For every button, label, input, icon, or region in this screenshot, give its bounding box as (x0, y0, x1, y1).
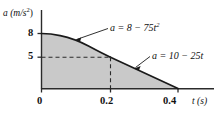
acceleration-time-figure: a (m/s2) t (s) 8 5 0 0.2 0.4 a = 8 − 75t… (0, 0, 221, 116)
leader-line-curve (77, 29, 109, 40)
x-tick-label-0-2: 0.2 (100, 96, 113, 107)
x-axis-title: t (s) (192, 97, 207, 107)
curve-equation-exponent: 2 (156, 21, 159, 28)
y-tick-label-8: 8 (28, 28, 33, 39)
leader-line-line (136, 57, 151, 68)
shaded-area (42, 34, 179, 89)
curve-equation-label: a = 8 − 75t2 (110, 23, 160, 33)
curve-equation-text: a = 8 − 75t (110, 22, 156, 33)
line-equation-label: a = 10 − 25t (152, 51, 203, 61)
x-tick-label-0-4: 0.4 (163, 96, 176, 107)
y-axis-title-text: a (m/s (3, 8, 27, 18)
x-tick-label-0: 0 (37, 96, 42, 107)
y-axis-title: a (m/s2) (3, 9, 33, 19)
y-axis-title-close: ) (30, 8, 33, 18)
y-tick-label-5: 5 (28, 51, 33, 62)
